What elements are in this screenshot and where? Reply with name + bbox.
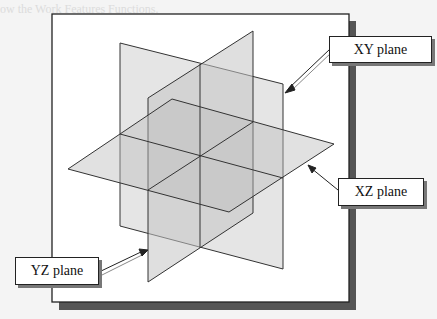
yz-plane-label: YZ plane: [15, 257, 99, 285]
xz-plane-label: XZ plane: [338, 178, 424, 206]
xy-plane-label: XY plane: [329, 36, 432, 63]
